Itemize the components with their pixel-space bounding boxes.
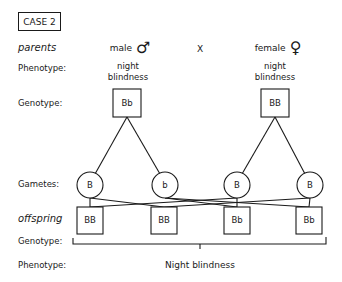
female-genotype: BB <box>269 98 281 109</box>
offspring-genotype-1: BB <box>84 215 96 226</box>
offspring-bracket <box>73 237 326 244</box>
offspring-genotype-2: BB <box>158 215 170 226</box>
offspring-genotype-3: Bb <box>231 215 242 226</box>
male-genotype: Bb <box>121 98 132 109</box>
punnett-cross-diagram <box>0 0 342 282</box>
male-gamete-1: B <box>87 180 93 191</box>
male-gamete-2: b <box>162 180 167 191</box>
female-gamete-2: B <box>307 180 313 191</box>
female-gamete-1: B <box>234 180 240 191</box>
offspring-phenotype: Night blindness <box>165 260 235 271</box>
offspring-genotype-4: Bb <box>303 215 314 226</box>
